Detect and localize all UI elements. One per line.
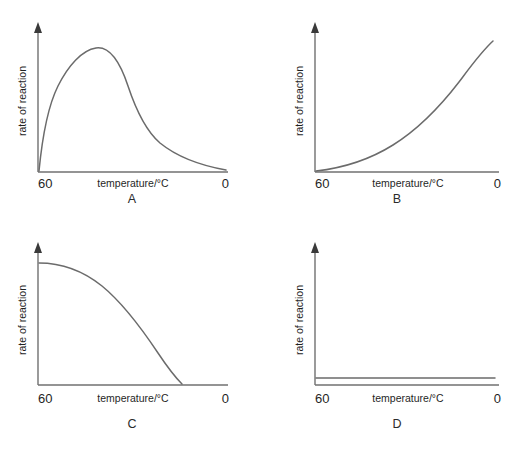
panel-letter-a: A [0,192,264,206]
plot-area-c: 60 0 temperature/°C rate of reaction [0,225,264,420]
plot-area-d: 60 0 temperature/°C rate of reaction [265,225,529,420]
data-curve-a [39,48,226,171]
y-axis-title-b: rate of reaction [293,66,305,136]
panel-letter-d: D [265,417,529,431]
chart-panel-d: 60 0 temperature/°C rate of reaction D [265,225,529,450]
chart-panel-a: 60 0 temperature/°C rate of reaction A [0,0,264,225]
y-axis-title-a: rate of reaction [16,66,28,136]
y-axis-arrow-icon-b [311,22,319,33]
y-axis-arrow-icon-c [34,242,42,253]
multi-panel-chart-figure: 60 0 temperature/°C rate of reaction A 6… [0,0,529,450]
x-axis-title-b: temperature/°C [372,177,444,189]
x-tick-right-a: 0 [222,176,229,191]
x-tick-left-c: 60 [38,391,52,406]
x-tick-right-c: 0 [222,391,229,406]
data-curve-c [39,263,182,384]
panel-letter-b: B [265,192,529,206]
data-curve-b [316,41,493,171]
y-axis-title-d: rate of reaction [293,285,305,355]
chart-panel-c: 60 0 temperature/°C rate of reaction C [0,225,264,450]
plot-area-b: 60 0 temperature/°C rate of reaction [265,0,529,195]
y-axis-title-c: rate of reaction [16,285,28,355]
x-axis-title-c: temperature/°C [97,392,169,404]
x-tick-left-a: 60 [38,176,52,191]
y-axis-arrow-icon-a [34,22,42,33]
plot-area-a: 60 0 temperature/°C rate of reaction [0,0,264,195]
panel-letter-c: C [0,417,264,431]
x-axis-title-a: temperature/°C [97,177,169,189]
x-axis-title-d: temperature/°C [372,392,444,404]
x-tick-left-d: 60 [315,391,329,406]
y-axis-arrow-icon-d [311,242,319,253]
x-tick-left-b: 60 [315,176,329,191]
x-tick-right-b: 0 [494,176,501,191]
x-tick-right-d: 0 [494,391,501,406]
chart-panel-b: 60 0 temperature/°C rate of reaction B [265,0,529,225]
